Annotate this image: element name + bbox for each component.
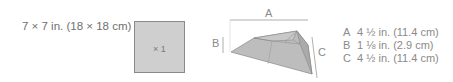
paper-count: × 1 [135,44,184,54]
paper-size-label: 7 × 7 in. (18 × 18 cm) [22,20,131,32]
dim-label-a: A [265,7,273,19]
folded-model-diagram: A B C [200,0,340,82]
dimension-a: A 4 ½ in. (11.4 cm) [343,26,439,39]
paper-square: × 1 [134,21,185,73]
dimensions-list: A 4 ½ in. (11.4 cm) B 1 ⅛ in. (2.9 cm) C… [343,26,439,65]
dimension-c: C 4 ½ in. (11.4 cm) [343,52,439,65]
dim-label-b: B [212,37,219,49]
dimension-b: B 1 ⅛ in. (2.9 cm) [343,39,439,52]
dim-label-c: C [318,46,326,58]
